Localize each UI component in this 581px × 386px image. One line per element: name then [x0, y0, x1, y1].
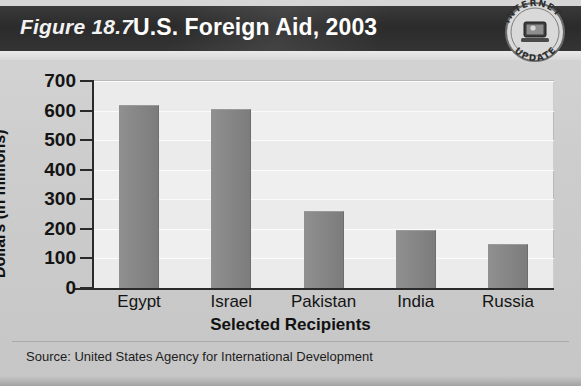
gridline: [93, 81, 554, 82]
figure-container: Figure 18.7 U.S. Foreign Aid, 2003 INTER…: [0, 0, 581, 386]
bar: [304, 211, 344, 288]
y-axis-line: [92, 80, 94, 290]
y-axis-title: Dollars (in millions): [0, 130, 9, 278]
y-tick-label: 0: [10, 277, 76, 299]
figure-number: Figure 18.7: [20, 15, 133, 39]
internet-update-badge[interactable]: INTERNET UPDATE: [497, 0, 573, 64]
category-label: Russia: [448, 292, 568, 312]
gridline: [93, 140, 554, 141]
y-tick-label: 100: [10, 247, 76, 269]
y-tick-label: 500: [10, 129, 76, 151]
y-tick-mark: [80, 198, 92, 200]
y-tick-mark: [80, 110, 92, 112]
bar: [488, 244, 528, 288]
plot-area: [93, 80, 554, 289]
page-title: U.S. Foreign Aid, 2003: [133, 14, 377, 41]
gridline: [93, 170, 554, 171]
y-tick-mark: [80, 169, 92, 171]
y-tick-label: 600: [10, 100, 76, 122]
x-axis-title: Selected Recipients: [0, 315, 581, 335]
y-tick-label: 300: [10, 188, 76, 210]
y-tick-label: 200: [10, 218, 76, 240]
bar: [396, 230, 436, 288]
gridline: [93, 111, 554, 112]
x-axis-line: [75, 288, 554, 290]
internet-update-seal-icon: INTERNET UPDATE: [497, 0, 573, 64]
figure-title-banner: Figure 18.7 U.S. Foreign Aid, 2003: [0, 6, 581, 51]
y-tick-label: 700: [10, 70, 76, 92]
y-tick-mark: [80, 287, 92, 289]
y-tick-mark: [80, 228, 92, 230]
bar: [119, 105, 159, 288]
banner-underline-strip: [0, 51, 581, 60]
y-tick-mark: [80, 139, 92, 141]
y-tick-mark: [80, 80, 92, 82]
y-tick-mark: [80, 257, 92, 259]
bar: [211, 109, 251, 288]
y-tick-label: 400: [10, 159, 76, 181]
grid-band: [93, 140, 554, 170]
grid-band: [93, 81, 554, 111]
source-note: Source: United States Agency for Interna…: [26, 349, 373, 364]
gridline: [93, 199, 554, 200]
source-divider: [12, 341, 569, 342]
page-edge-shadow: [0, 376, 581, 386]
